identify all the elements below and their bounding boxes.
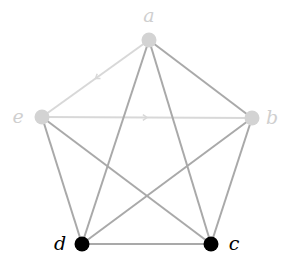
node-label-d: d bbox=[54, 232, 66, 254]
edge-a-b bbox=[149, 40, 252, 118]
edge-b-c bbox=[211, 118, 252, 244]
node-label-c: c bbox=[229, 232, 240, 254]
edge-a-d bbox=[82, 40, 149, 244]
node-c bbox=[204, 237, 219, 252]
nodes-layer bbox=[35, 33, 260, 252]
node-e bbox=[35, 110, 50, 125]
edge-e-c bbox=[42, 117, 211, 244]
node-d bbox=[75, 237, 90, 252]
node-label-b: b bbox=[266, 106, 278, 128]
edges-layer bbox=[42, 40, 252, 244]
node-a bbox=[142, 33, 157, 48]
edge-b-d bbox=[82, 118, 252, 244]
edge-e-d bbox=[42, 117, 82, 244]
graph-diagram: abcde bbox=[0, 0, 289, 267]
node-label-e: e bbox=[12, 105, 23, 127]
node-b bbox=[245, 111, 260, 126]
arrows-layer bbox=[96, 74, 148, 121]
edge-a-c bbox=[149, 40, 211, 244]
node-label-a: a bbox=[143, 4, 154, 26]
